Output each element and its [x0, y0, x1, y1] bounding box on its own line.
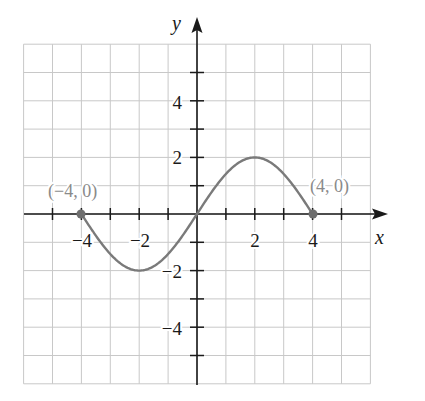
tick-label-y-neg2: −2 — [162, 261, 182, 282]
tick-label-x-4: 4 — [308, 230, 318, 251]
tick-label-x-neg4: −4 — [72, 230, 93, 251]
tick-label-y-4: 4 — [173, 92, 183, 113]
point-left-label: (−4, 0) — [48, 181, 97, 202]
x-axis-label: x — [374, 226, 384, 248]
tick-label-x-2: 2 — [250, 230, 260, 251]
point-left — [77, 210, 86, 219]
y-axis-label: y — [170, 12, 181, 35]
tick-label-x-neg2: −2 — [130, 230, 150, 251]
point-right-label: (4, 0) — [310, 176, 349, 197]
tick-label-y-2: 2 — [173, 147, 183, 168]
point-right — [309, 210, 318, 219]
function-graph: x y (−4, 0) (4, 0) −4 −2 2 4 4 2 −2 −4 — [0, 0, 425, 401]
tick-label-y-neg4: −4 — [162, 318, 183, 339]
